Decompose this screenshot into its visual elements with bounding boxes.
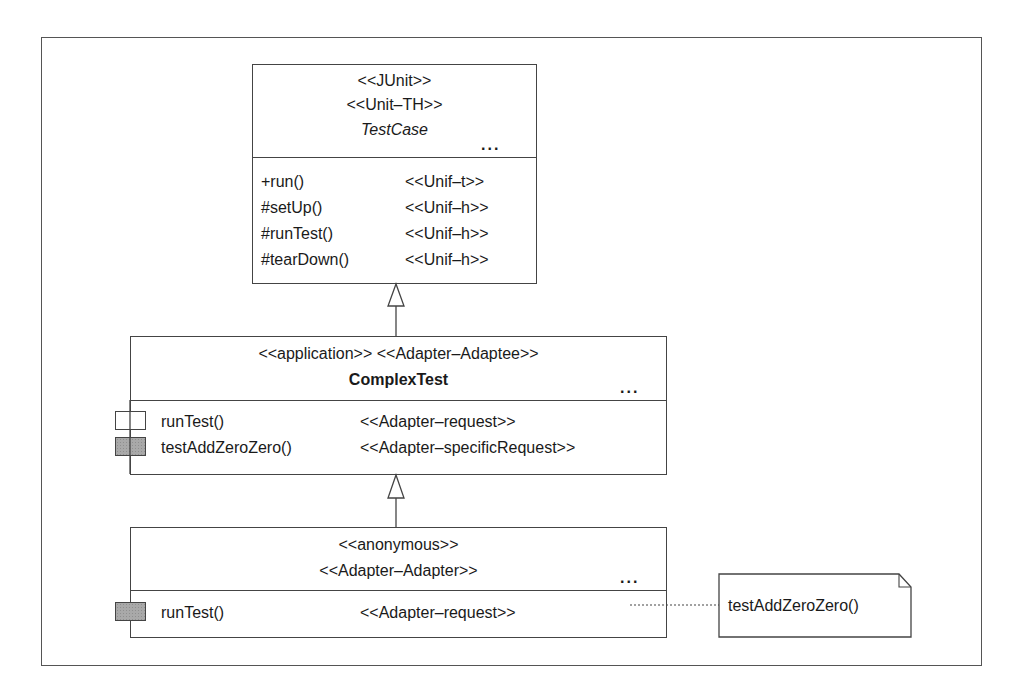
complextest-divider: [131, 400, 666, 401]
complextest-op-signature: testAddZeroZero(): [161, 438, 292, 458]
anonymous-stereotype: <<anonymous>>: [131, 535, 666, 555]
testcase-op-stereotype: <<Unif–h>>: [405, 224, 489, 244]
testcase-ellipsis-icon: ...: [481, 139, 500, 151]
complextest-class-name: ComplexTest: [131, 370, 666, 390]
anonymous-ellipsis-icon: ...: [620, 572, 639, 584]
complextest-stereotypes: <<application>> <<Adapter–Adaptee>>: [131, 344, 666, 364]
shaded-port-marker-icon: [115, 437, 146, 456]
shaded-port-marker-icon: [115, 602, 146, 621]
testcase-stereotype-junit: <<JUnit>>: [253, 71, 536, 91]
testcase-op-stereotype: <<Unif–h>>: [405, 198, 489, 218]
testcase-op-signature: #setUp(): [261, 198, 322, 218]
empty-port-marker-icon: [115, 411, 146, 430]
complextest-ellipsis-icon: ...: [620, 382, 639, 394]
testcase-op-signature: +run(): [261, 172, 304, 192]
testcase-stereotype-unit-th: <<Unit–TH>>: [253, 95, 536, 115]
complextest-op-stereotype: <<Adapter–specificRequest>>: [360, 438, 575, 458]
adapter-adapter-stereotype: <<Adapter–Adapter>>: [131, 561, 666, 581]
testcase-op-stereotype: <<Unif–t>>: [405, 172, 484, 192]
complextest-op-stereotype: <<Adapter–request>>: [360, 412, 516, 432]
complextest-op-signature: runTest(): [161, 412, 224, 432]
testcase-op-signature: #tearDown(): [261, 250, 349, 270]
note-text: testAddZeroZero(): [728, 596, 859, 616]
testcase-op-signature: #runTest(): [261, 224, 333, 244]
class-testcase: <<JUnit>> <<Unit–TH>> TestCase ... +run(…: [252, 64, 537, 284]
testcase-op-stereotype: <<Unif–h>>: [405, 250, 489, 270]
testcase-divider: [253, 157, 536, 158]
anonymous-op-signature: runTest(): [161, 603, 224, 623]
anonymous-op-stereotype: <<Adapter–request>>: [360, 603, 516, 623]
class-complextest: <<application>> <<Adapter–Adaptee>> Comp…: [130, 336, 667, 475]
class-anonymous: <<anonymous>> <<Adapter–Adapter>> ... ru…: [130, 527, 667, 638]
anonymous-divider: [131, 590, 666, 591]
